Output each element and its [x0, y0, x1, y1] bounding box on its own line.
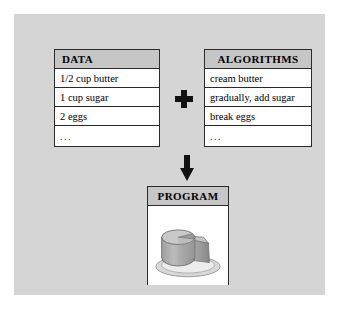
data-row: 1 cup sugar — [55, 88, 159, 107]
data-card: DATA 1/2 cup butter 1 cup sugar 2 eggs .… — [54, 49, 160, 147]
plus-icon — [175, 90, 193, 108]
algorithms-row: break eggs — [205, 107, 311, 126]
down-arrow-head — [180, 168, 194, 181]
algorithms-row: cream butter — [205, 69, 311, 88]
algorithms-row: gradually, add sugar — [205, 88, 311, 107]
data-row-ellipsis: ... — [55, 126, 159, 145]
algorithms-card: ALGORITHMS cream butter gradually, add s… — [204, 49, 312, 147]
algorithms-card-header: ALGORITHMS — [205, 50, 311, 69]
diagram-canvas: DATA 1/2 cup butter 1 cup sugar 2 eggs .… — [0, 0, 340, 309]
data-card-header: DATA — [55, 50, 159, 69]
diagram-panel: DATA 1/2 cup butter 1 cup sugar 2 eggs .… — [14, 14, 325, 295]
algorithms-row-ellipsis: ... — [205, 126, 311, 145]
program-card-header: PROGRAM — [148, 187, 228, 206]
cake-on-plate-icon — [148, 206, 228, 285]
program-card: PROGRAM — [147, 186, 229, 285]
data-row: 1/2 cup butter — [55, 69, 159, 88]
cake-illustration — [148, 206, 228, 285]
data-row: 2 eggs — [55, 107, 159, 126]
algorithms-card-rows: cream butter gradually, add sugar break … — [205, 69, 311, 145]
down-arrow-icon — [180, 155, 194, 181]
plus-icon-vertical-bar — [181, 90, 187, 108]
data-card-rows: 1/2 cup butter 1 cup sugar 2 eggs ... — [55, 69, 159, 145]
